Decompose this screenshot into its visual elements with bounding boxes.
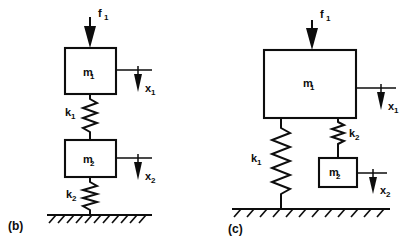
spring-sub-k2-panel-b: 2 — [72, 194, 77, 203]
spring-k2-panel-c — [332, 118, 344, 158]
force-arrow-f1-panel-c — [306, 20, 318, 50]
mechanical-system-figure: f 1 m 1 x 1 k 1 m — [0, 0, 411, 242]
panel-c: f 1 m 1 x 1 k 1 — [228, 8, 399, 236]
force-label-f1-panel-b: f — [98, 7, 102, 19]
displacement-sub-x1-panel-b: 1 — [151, 88, 156, 97]
force-sub-f1-panel-c: 1 — [326, 14, 331, 23]
panel-tag-b: (b) — [8, 219, 23, 233]
spring-sub-k2-panel-c: 2 — [355, 133, 360, 142]
spring-sub-k1-panel-c: 1 — [257, 158, 262, 167]
spring-k1-panel-c — [272, 118, 290, 209]
mass-sub-m2-panel-b: 2 — [90, 159, 95, 168]
spring-k1-panel-b — [83, 94, 97, 140]
force-sub-f1-panel-b: 1 — [104, 13, 109, 22]
mass-sub-m2-panel-c: 2 — [336, 172, 341, 181]
force-arrow-f1-panel-b — [84, 17, 96, 48]
spring-sub-k1-panel-b: 1 — [71, 112, 76, 121]
panel-b: f 1 m 1 x 1 k 1 m — [8, 7, 156, 233]
mass-sub-m1-panel-b: 1 — [90, 72, 95, 81]
force-label-f1-panel-c: f — [320, 8, 324, 20]
spring-k2-panel-b — [83, 177, 97, 215]
displacement-sub-x2-panel-c: 2 — [386, 190, 391, 199]
displacement-sub-x1-panel-c: 1 — [394, 106, 399, 115]
displacement-sub-x2-panel-b: 2 — [151, 176, 156, 185]
ground-panel-c — [232, 209, 390, 217]
panel-tag-c: (c) — [228, 222, 243, 236]
figure-canvas: f 1 m 1 x 1 k 1 m — [0, 0, 411, 242]
mass-sub-m1-panel-c: 1 — [310, 83, 315, 92]
ground-panel-b — [47, 215, 152, 223]
